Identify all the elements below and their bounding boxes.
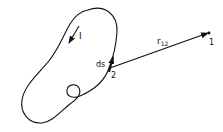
line-element-label: ds	[96, 60, 105, 69]
r12-label: r12	[157, 36, 169, 47]
current-direction-arrow	[69, 26, 79, 43]
r12-subscript: 12	[161, 40, 169, 47]
field-point-label: 1	[209, 38, 214, 47]
current-label: I	[79, 31, 82, 41]
field-point-dot	[208, 32, 211, 35]
current-loop-diagram: I ds 2 r12 1	[0, 0, 223, 132]
source-point-label: 2	[111, 71, 116, 80]
line-element-arrow	[109, 57, 113, 72]
